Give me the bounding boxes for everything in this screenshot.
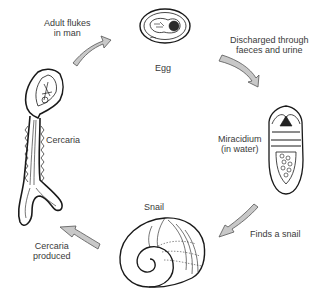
label-line: faeces and urine (230, 45, 309, 55)
arrow-adult-flukes-icon (73, 36, 111, 66)
label-line: Miracidium (218, 134, 262, 144)
stage-label-cercaria: Cercaria (46, 135, 80, 145)
label-line: Discharged through (230, 35, 309, 45)
stage-label-egg: Egg (155, 63, 171, 73)
stage-label-miracidium: Miracidium (in water) (218, 134, 262, 154)
label-line: produced (33, 251, 71, 261)
cercaria-illustration-icon (19, 69, 63, 225)
stage-label-snail: Snail (144, 202, 164, 212)
label-line: (in water) (218, 144, 262, 154)
arrow-discharged-icon (219, 55, 259, 87)
miracidium-illustration-icon (269, 106, 303, 194)
label-line: Adult flukes (44, 18, 91, 28)
transition-label-finds-snail: Finds a snail (250, 229, 301, 239)
snail-illustration-icon (120, 218, 205, 287)
transition-label-discharged: Discharged through faeces and urine (230, 35, 309, 55)
transition-label-adult-flukes: Adult flukes in man (44, 18, 91, 38)
egg-illustration-icon (140, 9, 190, 43)
transition-label-cercaria-produced: Cercaria produced (33, 241, 71, 261)
label-line: Cercaria (33, 241, 71, 251)
label-line: in man (44, 28, 91, 38)
